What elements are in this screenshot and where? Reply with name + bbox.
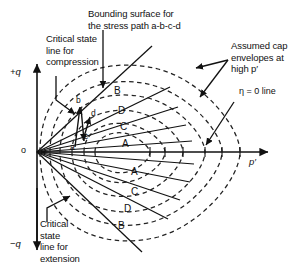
axis-label-q-negative: −q bbox=[10, 238, 21, 249]
ray-label-upper-D: D bbox=[118, 105, 125, 116]
annotation-critical-state-extension: Critical state line for extension bbox=[40, 218, 100, 264]
ray-label-upper-C: C bbox=[120, 121, 127, 132]
stress-path-label-b: b bbox=[76, 95, 81, 105]
cap-envelope-6 bbox=[40, 65, 240, 241]
stress-path-label-a: a bbox=[70, 142, 75, 152]
radial-line-upper-D bbox=[37, 107, 178, 152]
axis-label-p-prime: p′ bbox=[249, 156, 256, 167]
ray-label-lower-D: D bbox=[124, 203, 131, 214]
annotation-assumed-cap-envelopes: Assumed cap envelopes at high p′ bbox=[231, 40, 303, 75]
ray-label-lower-A: A bbox=[131, 166, 138, 177]
ray-label-upper-A: A bbox=[122, 138, 129, 149]
annotation-eta-zero-line: η = 0 line bbox=[239, 86, 276, 96]
ray-label-upper-B: B bbox=[114, 85, 121, 96]
radial-line-upper-C bbox=[37, 125, 186, 152]
annotation-bounding-surface: Bounding surface for the stress path a-b… bbox=[88, 8, 213, 31]
ray-label-lower-C: C bbox=[131, 186, 138, 197]
axis-label-q-positive: +q bbox=[10, 66, 21, 77]
cap-envelopes bbox=[40, 65, 240, 241]
leader-eta-zero bbox=[206, 102, 234, 145]
figure-canvas: +q −q p′ o Critical state line for compr… bbox=[0, 0, 303, 280]
ray-label-lower-B: B bbox=[118, 220, 125, 231]
origin-label: o bbox=[21, 145, 26, 155]
stress-path-label-d: d bbox=[91, 108, 96, 118]
annotation-critical-state-compression: Critical state line for compression bbox=[46, 33, 138, 68]
stress-path-label-c: c bbox=[84, 131, 88, 141]
cap-envelope-2 bbox=[84, 123, 165, 182]
